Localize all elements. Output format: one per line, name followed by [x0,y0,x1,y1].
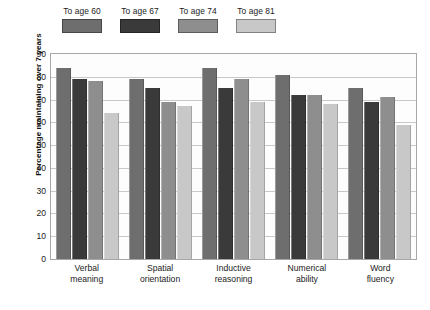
bar[interactable] [380,97,395,259]
plot-area: 9080706050403020100 [50,53,417,260]
bar[interactable] [307,95,322,259]
legend-item-0[interactable]: To age 60 [62,6,102,33]
bar[interactable] [291,95,306,259]
bar[interactable] [202,68,217,259]
legend-swatch [62,19,102,33]
figure-caption [2,299,82,308]
chart-legend: To age 60To age 67To age 74To age 81 [62,6,294,33]
legend-label: To age 74 [179,6,217,16]
legend-swatch [120,19,160,33]
bar[interactable] [56,68,71,259]
bar[interactable] [129,79,144,259]
bar[interactable] [323,104,338,259]
x-axis-label-1: Spatialorientation [123,263,196,285]
bar[interactable] [72,79,87,259]
legend-item-2[interactable]: To age 74 [178,6,218,33]
bar[interactable] [177,106,192,259]
bar[interactable] [145,88,160,259]
bar[interactable] [364,102,379,259]
bar-group-2 [197,54,270,259]
bar-group-4 [343,54,416,259]
y-axis-tick-label: 30 [36,186,46,196]
x-axis-label-0: Verbalmeaning [50,263,123,285]
bar[interactable] [348,88,363,259]
legend-label: To age 60 [63,6,101,16]
y-axis-tick-label: 90 [36,49,46,59]
legend-label: To age 67 [121,6,159,16]
y-axis-tick-label: 80 [36,72,46,82]
bar-groups [51,54,416,259]
x-axis-label-4: Wordfluency [344,263,417,285]
bar-chart: To age 60To age 67To age 74To age 81 Per… [0,0,430,310]
legend-swatch [236,19,276,33]
bar[interactable] [234,79,249,259]
x-axis-label-2: Inductivereasoning [197,263,270,285]
bar[interactable] [250,102,265,259]
bar[interactable] [88,81,103,259]
x-axis-labels: VerbalmeaningSpatialorientationInductive… [50,263,417,285]
y-axis-tick-label: 50 [36,140,46,150]
bar[interactable] [275,75,290,260]
bar[interactable] [218,88,233,259]
x-axis-label-3: Numericalability [270,263,343,285]
bar-group-0 [51,54,124,259]
y-axis-tick-label: 0 [41,254,46,264]
y-axis-tick-label: 40 [36,163,46,173]
bar[interactable] [161,102,176,259]
legend-label: To age 81 [237,6,275,16]
bar[interactable] [104,113,119,259]
bar[interactable] [396,125,411,259]
y-axis-tick-label: 60 [36,117,46,127]
bar-group-3 [270,54,343,259]
y-axis-tick-label: 20 [36,208,46,218]
y-axis-tick-label: 70 [36,95,46,105]
legend-item-3[interactable]: To age 81 [236,6,276,33]
legend-swatch [178,19,218,33]
y-axis-tick-label: 10 [36,231,46,241]
legend-item-1[interactable]: To age 67 [120,6,160,33]
bar-group-1 [124,54,197,259]
